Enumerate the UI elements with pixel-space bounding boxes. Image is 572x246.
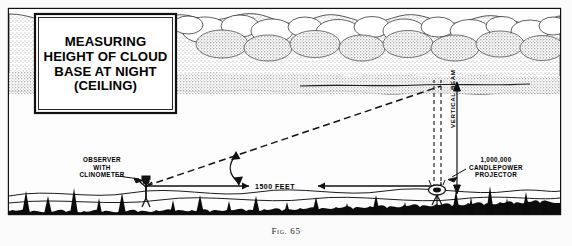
figure-caption: Fig. 65 (0, 226, 572, 236)
projector-label: 1,000,000 CANDLEPOWER PROJECTOR (452, 156, 540, 179)
title-line-2: Height of Cloud (44, 50, 168, 64)
title-line-3: Base at Night (54, 65, 156, 79)
projector-label-line-3: PROJECTOR (452, 171, 540, 179)
figure-plate: Measuring Height of Cloud Base at Night … (0, 0, 572, 246)
projector-label-line-2: CANDLEPOWER (452, 164, 540, 172)
title-line-1: Measuring (65, 35, 147, 49)
title-block-text: Measuring Height of Cloud Base at Night … (41, 19, 170, 109)
figure-caption-prefix: Fig. (271, 226, 287, 236)
vertical-beam-label: VERTICAL BEAM (449, 64, 456, 134)
baseline-distance-label: 1500 FEET (255, 183, 321, 191)
projector-label-line-1: 1,000,000 (452, 156, 540, 164)
observer-label-line-3: CLINOMETER (60, 171, 144, 179)
observer-label-line-1: OBSERVER (60, 156, 144, 164)
observer-label-line-2: WITH (60, 164, 144, 172)
figure-caption-number: 65 (290, 226, 300, 236)
observer-label: OBSERVER WITH CLINOMETER (60, 156, 144, 179)
title-line-4: (Ceiling) (74, 79, 137, 93)
